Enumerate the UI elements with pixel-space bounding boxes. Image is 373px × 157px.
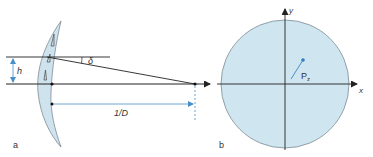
lens-center-dot	[50, 82, 53, 85]
distance-label: 1/D	[114, 108, 129, 118]
focal-point-dot	[193, 82, 196, 85]
point-dot	[301, 58, 305, 62]
y-axis-label: y	[288, 6, 294, 15]
panel-b: x y Pz b	[217, 6, 364, 150]
panel-a-label: a	[13, 140, 18, 150]
angle-arc	[82, 57, 83, 63]
height-label: h	[17, 66, 22, 76]
panel-a: δ h 1/D a	[6, 21, 210, 150]
panel-b-label: b	[219, 140, 224, 150]
angle-label: δ	[88, 56, 94, 66]
x-axis-label: x	[358, 86, 364, 95]
refracted-ray	[47, 57, 195, 84]
optics-diagram: δ h 1/D a x y Pz b	[0, 0, 373, 157]
